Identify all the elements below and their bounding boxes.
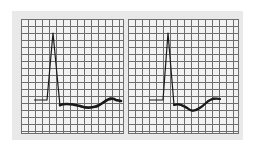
right-st-t-segment bbox=[174, 99, 220, 111]
left-st-t-segment bbox=[60, 99, 121, 108]
left-ecg-waveform bbox=[34, 33, 121, 108]
ecg-traces bbox=[0, 0, 257, 148]
